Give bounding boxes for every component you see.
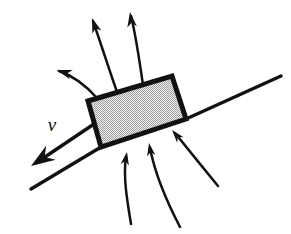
velocity-label: v [48, 114, 57, 135]
figure-container: v [0, 0, 291, 234]
flow-diagram: v [0, 0, 291, 234]
